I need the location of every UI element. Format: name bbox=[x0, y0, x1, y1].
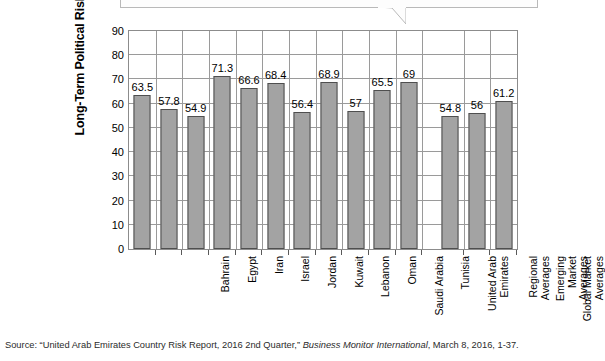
y-tick-label: 60 bbox=[100, 99, 124, 109]
x-axis-labels: BahrainEgyptIranIsraelJordanKuwaitLebano… bbox=[128, 256, 518, 331]
y-tick-label: 90 bbox=[100, 26, 124, 36]
callout-tail-icon bbox=[378, 7, 406, 25]
x-axis-category-label: Iran bbox=[274, 256, 286, 330]
bar[interactable] bbox=[442, 116, 459, 249]
bar-group: 65.5 bbox=[369, 31, 396, 249]
bar-group: 66.6 bbox=[236, 31, 263, 249]
bar[interactable] bbox=[214, 76, 231, 249]
bar-group: 54.9 bbox=[182, 31, 209, 249]
x-axis-category-label: Kuwait bbox=[354, 256, 366, 330]
bar-group: 63.5 bbox=[129, 31, 156, 249]
bar[interactable] bbox=[468, 113, 485, 249]
callout-bubble bbox=[120, 0, 538, 8]
bar-group: 68.9 bbox=[316, 31, 343, 249]
y-tick-label: 0 bbox=[100, 244, 124, 254]
x-tick bbox=[341, 250, 342, 255]
x-tick bbox=[155, 250, 156, 255]
bar-value-label: 61.2 bbox=[493, 88, 514, 99]
plot-area: 63.557.854.971.366.668.456.468.95765.569… bbox=[128, 30, 518, 250]
bar-value-label: 65.5 bbox=[372, 77, 393, 88]
bar[interactable] bbox=[134, 95, 151, 249]
x-axis-category-label: Saudi Arabia bbox=[434, 256, 446, 330]
x-axis-category-label: Global Market Averages bbox=[582, 256, 605, 330]
bar-group: 56 bbox=[464, 31, 491, 249]
x-axis-category-label: Jordan bbox=[327, 256, 339, 330]
y-axis-tick-labels: 0102030405060708090 bbox=[0, 30, 128, 250]
bar-value-label: 57 bbox=[350, 98, 362, 109]
x-tick bbox=[516, 250, 517, 255]
bar[interactable] bbox=[374, 90, 391, 249]
bar-value-label: 71.3 bbox=[212, 63, 233, 74]
x-axis-category-label: Bahrain bbox=[220, 256, 232, 330]
bar-group: 54.8 bbox=[437, 31, 464, 249]
bar[interactable] bbox=[495, 101, 512, 249]
source-note: Source: “United Arab Emirates Country Ri… bbox=[5, 340, 519, 351]
x-axis-category-label: Israel bbox=[300, 256, 312, 330]
bar[interactable] bbox=[187, 116, 204, 249]
bar[interactable] bbox=[240, 88, 257, 249]
source-suffix: , March 8, 2016, 1-37. bbox=[428, 340, 519, 350]
x-tick bbox=[235, 250, 236, 255]
x-tick bbox=[288, 250, 289, 255]
bar-value-label: 68.9 bbox=[318, 69, 339, 80]
x-tick bbox=[208, 250, 209, 255]
source-publication: Business Monitor International bbox=[303, 340, 428, 350]
bar[interactable] bbox=[294, 112, 311, 249]
bar-group: 57 bbox=[342, 31, 369, 249]
bar-group: 68.4 bbox=[262, 31, 289, 249]
x-tick bbox=[181, 250, 182, 255]
bar-value-label: 54.9 bbox=[185, 103, 206, 114]
x-axis-category-label: Tunisia bbox=[460, 256, 472, 330]
bar[interactable] bbox=[160, 109, 177, 249]
x-axis-category-label: Egypt bbox=[247, 256, 259, 330]
x-axis-category-label: United Arab Emirates bbox=[487, 256, 510, 330]
x-tick bbox=[261, 250, 262, 255]
y-tick-label: 30 bbox=[100, 171, 124, 181]
x-tick bbox=[489, 250, 490, 255]
y-tick-label: 70 bbox=[100, 74, 124, 84]
bar-value-label: 66.6 bbox=[238, 75, 259, 86]
x-tick bbox=[368, 250, 369, 255]
bar-value-label: 63.5 bbox=[132, 82, 153, 93]
y-tick-label: 10 bbox=[100, 220, 124, 230]
bar-value-label: 68.4 bbox=[265, 70, 286, 81]
bar-value-label: 56 bbox=[471, 100, 483, 111]
bar-value-label: 54.8 bbox=[440, 103, 461, 114]
x-tick bbox=[315, 250, 316, 255]
x-tick bbox=[463, 250, 464, 255]
y-tick-label: 20 bbox=[100, 196, 124, 206]
x-axis-category-label: Oman bbox=[407, 256, 419, 330]
y-tick-label: 80 bbox=[100, 50, 124, 60]
bar[interactable] bbox=[400, 82, 417, 249]
bar[interactable] bbox=[267, 83, 284, 249]
y-tick-label: 50 bbox=[100, 123, 124, 133]
x-tick bbox=[395, 250, 396, 255]
x-axis-category-label: Regional Averages bbox=[528, 256, 551, 330]
bar-group: 61.2 bbox=[490, 31, 517, 249]
bar-group: 69 bbox=[396, 31, 423, 249]
bar-group: 56.4 bbox=[289, 31, 316, 249]
y-tick-label: 40 bbox=[100, 147, 124, 157]
bar[interactable] bbox=[320, 82, 337, 249]
bar-value-label: 69 bbox=[403, 69, 415, 80]
source-prefix: Source: “United Arab Emirates Country Ri… bbox=[5, 340, 303, 350]
bar-group: 57.8 bbox=[156, 31, 183, 249]
x-tick bbox=[421, 250, 422, 255]
bar[interactable] bbox=[347, 111, 364, 249]
x-axis-category-label: Lebanon bbox=[380, 256, 392, 330]
bar-value-label: 57.8 bbox=[158, 96, 179, 107]
bar-value-label: 56.4 bbox=[292, 99, 313, 110]
bar-group: 71.3 bbox=[209, 31, 236, 249]
